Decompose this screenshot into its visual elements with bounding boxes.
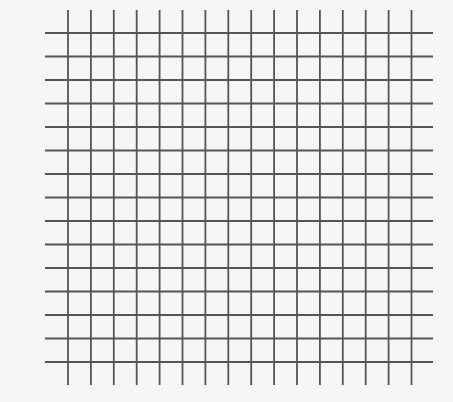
grid-paper bbox=[0, 0, 453, 402]
